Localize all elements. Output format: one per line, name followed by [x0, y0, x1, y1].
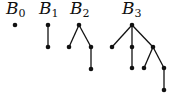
tree-node	[110, 45, 115, 50]
tree-node	[67, 45, 72, 50]
tree-node	[13, 23, 18, 28]
tree-b3	[110, 23, 167, 93]
tree-edge	[112, 25, 132, 47]
tree-node	[151, 45, 156, 50]
tree-edge	[153, 47, 164, 68]
tree-node	[89, 67, 94, 72]
tree-b2	[67, 23, 94, 72]
tree-b1	[46, 23, 51, 50]
tree-node	[46, 23, 51, 28]
tree-node	[46, 45, 51, 50]
tree-node	[130, 66, 135, 71]
tree-label: B3	[122, 0, 142, 19]
tree-edge	[79, 25, 91, 47]
tree-label: B0	[6, 0, 26, 19]
tree-label: B2	[70, 0, 90, 19]
tree-edge	[144, 47, 153, 68]
tree-node	[89, 45, 94, 50]
tree-node	[142, 66, 147, 71]
tree-b0	[13, 23, 18, 28]
tree-edge	[132, 25, 153, 47]
tree-label: B1	[39, 0, 59, 19]
tree-node	[77, 23, 82, 28]
tree-node	[162, 88, 167, 93]
tree-node	[130, 23, 135, 28]
tree-node	[130, 45, 135, 50]
tree-node	[162, 66, 167, 71]
tree-edge	[69, 25, 79, 47]
